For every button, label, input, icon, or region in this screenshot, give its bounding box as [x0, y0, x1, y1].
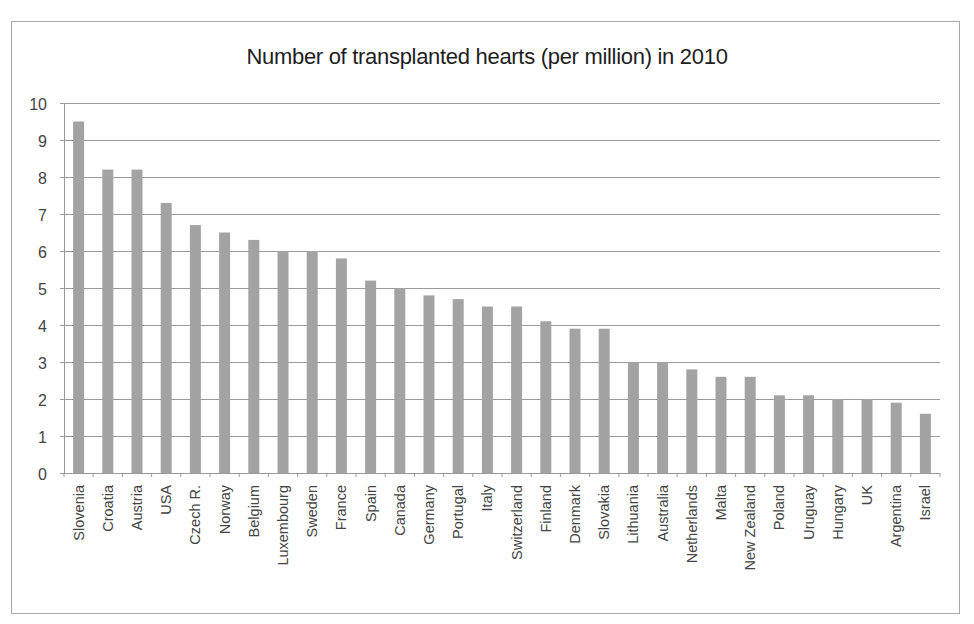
x-axis-labels: SloveniaCroatiaAustriaUSACzech R.NorwayB…	[71, 484, 934, 570]
x-tick-label: Croatia	[100, 484, 116, 532]
x-tick-label: Hungary	[830, 484, 846, 540]
x-tick-label: France	[333, 485, 349, 530]
x-tick-label: Argentina	[888, 484, 904, 547]
bar-usa	[161, 203, 172, 473]
bar-australia	[657, 362, 668, 473]
x-tick-label: USA	[158, 485, 174, 515]
y-tick-label: 3	[38, 355, 47, 372]
x-tick-label: Czech R.	[187, 485, 203, 545]
x-tick-label: Belgium	[246, 485, 262, 537]
x-tick-label: Australia	[655, 484, 671, 541]
x-tick-label: Luxembourg	[275, 485, 291, 566]
y-tick-label: 0	[38, 466, 47, 483]
bar-netherlands	[686, 369, 697, 473]
x-tick-label: Germany	[421, 484, 437, 544]
x-tick-label: Israel	[917, 485, 933, 520]
bar-sweden	[307, 251, 318, 473]
y-tick-label: 1	[38, 429, 47, 446]
bar-germany	[424, 295, 435, 473]
bar-france	[336, 258, 347, 473]
bar-new-zealand	[745, 377, 756, 473]
bar-croatia	[102, 170, 113, 473]
y-tick-label: 8	[38, 170, 47, 187]
x-tick-label: Austria	[129, 484, 145, 530]
bar-argentina	[891, 403, 902, 473]
bar-italy	[482, 307, 493, 474]
y-tick-label: 10	[29, 96, 47, 113]
bar-chart: 012345678910 SloveniaCroatiaAustriaUSACz…	[0, 0, 974, 624]
bar-canada	[394, 288, 405, 473]
x-tick-label: Poland	[771, 485, 787, 530]
bar-israel	[920, 414, 931, 473]
x-tick-label: Switzerland	[509, 485, 525, 560]
bar-denmark	[570, 329, 581, 473]
bar-spain	[365, 281, 376, 473]
bar-portugal	[453, 299, 464, 473]
x-tick-label: Sweden	[304, 485, 320, 537]
bar-finland	[540, 321, 551, 473]
y-tick-label: 2	[38, 392, 47, 409]
bar-lithuania	[628, 362, 639, 473]
y-axis-ticks: 012345678910	[29, 96, 47, 483]
bar-luxembourg	[278, 251, 289, 473]
x-tick-label: Portugal	[450, 485, 466, 539]
x-tick-label: UK	[859, 485, 875, 505]
x-tick-label: Italy	[479, 484, 495, 511]
bar-austria	[132, 170, 143, 473]
x-tick-label: Denmark	[567, 484, 583, 544]
bar-switzerland	[511, 307, 522, 474]
x-tick-label: Finland	[538, 485, 554, 533]
x-tick-label: Canada	[392, 484, 408, 536]
bar-malta	[716, 377, 727, 473]
bar-poland	[774, 395, 785, 473]
x-tick-label: New Zealand	[742, 485, 758, 570]
x-tick-label: Lithuania	[625, 484, 641, 544]
bar-belgium	[248, 240, 259, 473]
x-tick-label: Netherlands	[684, 485, 700, 563]
x-tick-label: Malta	[713, 484, 729, 520]
x-tick-label: Slovenia	[71, 484, 87, 541]
bar-slovakia	[599, 329, 610, 473]
bar-uruguay	[803, 395, 814, 473]
y-tick-label: 5	[38, 281, 47, 298]
x-tick-label: Slovakia	[596, 484, 612, 540]
bar-uk	[862, 399, 873, 473]
y-tick-label: 9	[38, 133, 47, 150]
bar-norway	[219, 233, 230, 474]
x-tick-label: Uruguay	[801, 484, 817, 540]
y-tick-label: 4	[38, 318, 47, 335]
y-tick-label: 7	[38, 207, 47, 224]
bar-hungary	[832, 399, 843, 473]
x-tick-label: Spain	[363, 485, 379, 522]
bars	[73, 122, 931, 474]
bar-czech-r	[190, 225, 201, 473]
bar-slovenia	[73, 122, 84, 474]
x-tick-label: Norway	[217, 484, 233, 534]
y-tick-label: 6	[38, 244, 47, 261]
